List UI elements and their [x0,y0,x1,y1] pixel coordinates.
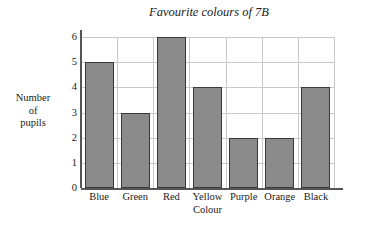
y-axis-title-line-2: of [2,105,64,118]
bar-series [81,37,334,188]
bar-green [121,113,150,189]
y-axis-title-line-3: pupils [2,117,64,130]
bar-blue [85,62,114,188]
chart-title: Favourite colours of 7B [80,5,338,19]
y-axis-tick-labels: 0123456 [60,0,77,232]
y-axis-title-line-1: Number [2,92,64,105]
x-axis-title: Colour [178,203,238,216]
bar-red [157,37,186,188]
x-tick-label-black: Black [294,190,338,203]
bar-chart-figure: Favourite colours of 7B Number of pupils… [0,0,373,232]
y-axis-title: Number of pupils [2,92,64,130]
bar-orange [265,138,294,188]
y-tick-label: 4 [63,82,77,93]
y-tick-label: 5 [63,57,77,68]
y-tick-label: 1 [63,158,77,169]
y-tick-label: 6 [63,32,77,43]
bar-purple [229,138,258,188]
y-tick-label: 2 [63,133,77,144]
y-tick-label: 0 [63,183,77,194]
bar-black [301,87,330,188]
gridline-vertical [334,37,335,188]
y-tick-label: 3 [63,108,77,119]
bar-yellow [193,87,222,188]
